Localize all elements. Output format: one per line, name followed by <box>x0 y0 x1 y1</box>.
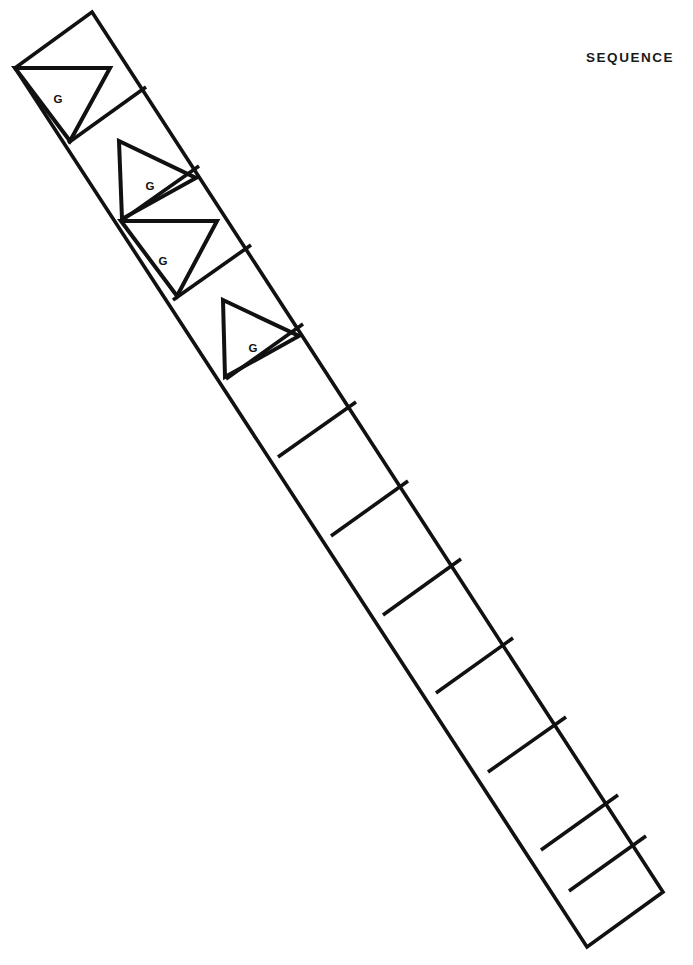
cell-label-1: G <box>53 93 62 105</box>
cell-label-3: G <box>158 255 167 267</box>
cell-label-4: G <box>248 342 257 354</box>
strip-outline <box>15 12 663 947</box>
sequence-title: SEQUENCE <box>586 50 674 65</box>
figure-root: GGGG SEQUENCE <box>0 0 693 965</box>
cell-label-2: G <box>145 180 154 192</box>
sequence-strip-diagram: GGGG <box>0 0 693 965</box>
